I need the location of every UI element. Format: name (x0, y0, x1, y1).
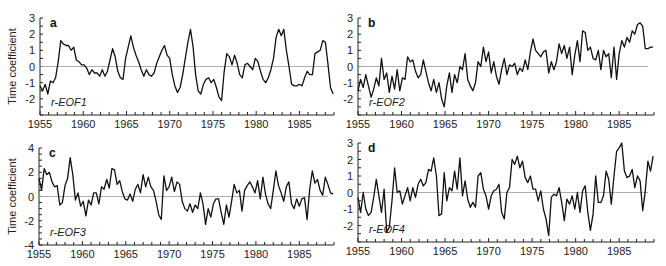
y-axis-label: Time coefficient (6, 158, 18, 234)
y-tick-label: 0 (28, 191, 34, 203)
x-tick-label: 1970 (476, 245, 500, 257)
y-tick-label: 0 (347, 187, 353, 199)
series-label: r-EOF4 (369, 223, 405, 235)
time-series-line (358, 23, 653, 107)
y-tick-label: 2 (28, 166, 34, 178)
panel-c: 420-2-41955196019651970197519801985cr-EO… (6, 142, 334, 260)
panel-letter: d (368, 141, 375, 155)
y-tick-label: 3 (347, 12, 353, 24)
x-tick-label: 1970 (157, 118, 181, 130)
y-tick-label: 0 (29, 61, 35, 73)
x-tick-label: 1955 (27, 248, 51, 260)
y-tick-label: -2 (25, 93, 35, 105)
x-tick-label: 1965 (433, 245, 457, 257)
y-tick-label: -2 (24, 215, 34, 227)
series-label: r-EOF2 (369, 96, 405, 108)
x-tick-label: 1970 (157, 248, 181, 260)
x-tick-label: 1960 (71, 118, 95, 130)
y-tick-label: 2 (29, 28, 35, 40)
panel-d: 3210-1-21955196019651970197519801985dr-E… (343, 137, 654, 257)
x-tick-label: 1960 (389, 245, 413, 257)
x-tick-label: 1955 (346, 118, 370, 130)
y-tick-label: 1 (347, 170, 353, 182)
x-tick-label: 1965 (114, 248, 138, 260)
x-tick-label: 1985 (287, 118, 311, 130)
y-tick-label: 2 (347, 154, 353, 166)
x-tick-label: 1965 (433, 118, 457, 130)
x-tick-label: 1980 (244, 248, 268, 260)
x-tick-label: 1975 (520, 118, 544, 130)
y-tick-label: 4 (28, 142, 34, 154)
time-series-line (39, 158, 333, 225)
x-tick-label: 1975 (520, 245, 544, 257)
x-tick-label: 1980 (563, 118, 587, 130)
y-axis-label: Time coefficient (6, 28, 18, 104)
x-tick-label: 1985 (607, 118, 631, 130)
y-tick-label: 3 (29, 12, 35, 24)
y-tick-label: 3 (347, 137, 353, 149)
x-tick-label: 1980 (563, 245, 587, 257)
series-label: r-EOF3 (50, 226, 87, 238)
x-tick-label: 1985 (287, 248, 311, 260)
x-tick-label: 1955 (346, 245, 370, 257)
eof-time-coefficient-figure: 3210-1-21955196019651970197519801985ar-E… (0, 0, 666, 266)
x-tick-label: 1975 (201, 118, 225, 130)
y-tick-label: -1 (343, 77, 353, 89)
panel-letter: c (49, 146, 56, 160)
time-series-line (358, 143, 653, 235)
y-tick-label: 2 (347, 28, 353, 40)
panel-a: 3210-1-21955196019651970197519801985ar-E… (6, 12, 334, 130)
panel-b: 3210-1-21955196019651970197519801985br-E… (343, 12, 654, 130)
time-series-line (40, 29, 333, 100)
x-tick-label: 1970 (476, 118, 500, 130)
x-tick-label: 1965 (114, 118, 138, 130)
x-tick-label: 1960 (389, 118, 413, 130)
panel-letter: a (50, 16, 57, 30)
x-tick-label: 1980 (244, 118, 268, 130)
panel-letter: b (368, 16, 375, 30)
y-tick-label: -2 (343, 93, 353, 105)
series-label: r-EOF1 (51, 96, 87, 108)
y-tick-label: 0 (347, 61, 353, 73)
x-tick-label: 1960 (70, 248, 94, 260)
x-tick-label: 1955 (28, 118, 52, 130)
y-tick-label: 1 (29, 44, 35, 56)
x-tick-label: 1985 (607, 245, 631, 257)
x-tick-label: 1975 (200, 248, 224, 260)
y-tick-label: -1 (25, 77, 35, 89)
y-tick-label: -1 (343, 203, 353, 215)
y-tick-label: -2 (343, 220, 353, 232)
y-tick-label: 1 (347, 44, 353, 56)
